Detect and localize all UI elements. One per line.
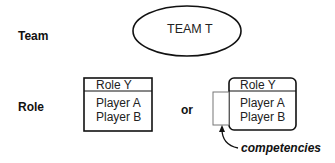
arrow-head-icon — [219, 125, 225, 132]
role-plain-title: Role Y — [96, 78, 132, 92]
competencies-annotation: competencies — [241, 141, 321, 155]
team-row-label: Team — [18, 29, 48, 43]
team-name: TEAM T — [167, 22, 213, 36]
role-comp-title: Role Y — [240, 78, 276, 92]
role-comp-player-b: Player B — [240, 110, 285, 124]
competency-box — [213, 92, 229, 125]
role-row-label: Role — [18, 100, 44, 114]
role-plain-player-a: Player A — [96, 96, 141, 110]
role-comp-player-a: Player A — [240, 96, 285, 110]
role-plain-player-b: Player B — [96, 110, 141, 124]
or-connector: or — [181, 103, 193, 117]
